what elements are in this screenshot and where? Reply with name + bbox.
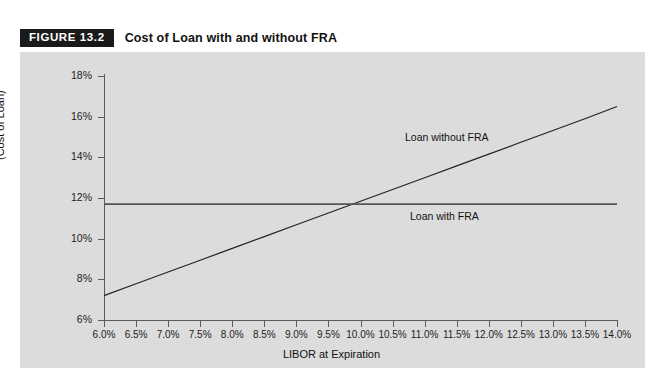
annotation-loan-without-fra: Loan without FRA [405, 131, 488, 143]
annotation-loan-with-fra: Loan with FRA [410, 210, 479, 222]
series-line-loan-without-fra [104, 107, 617, 296]
figure-container: FIGURE 13.2 Cost of Loan with and withou… [0, 0, 663, 384]
chart-series-layer [0, 0, 663, 384]
y-axis-title: (Cost of Loan) [0, 90, 6, 160]
x-axis-title: LIBOR at Expiration [0, 348, 663, 360]
